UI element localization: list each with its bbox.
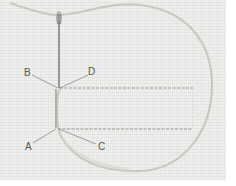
leader-b — [32, 75, 58, 88]
label-d: D — [88, 66, 95, 77]
label-a: A — [25, 141, 32, 152]
label-b: B — [24, 67, 31, 78]
label-c: C — [98, 141, 105, 152]
leader-d — [60, 75, 88, 88]
thread-loop — [10, 3, 212, 171]
leader-a — [33, 129, 56, 143]
stitch-diagram: B D A C — [0, 0, 236, 186]
